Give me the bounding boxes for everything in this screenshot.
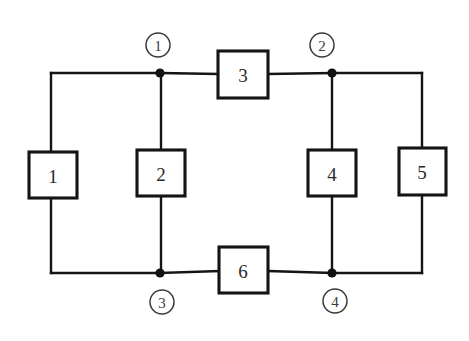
circuit-schematic-svg: 123456 1234 <box>0 0 469 341</box>
node-marker-3: 3 <box>150 290 174 314</box>
wire-node1-to-box3 <box>160 73 218 74</box>
component-branch-6[interactable]: 6 <box>219 247 268 293</box>
component-label-2: 2 <box>156 164 166 185</box>
component-branch-3[interactable]: 3 <box>218 51 268 98</box>
node-marker-1: 1 <box>146 33 170 57</box>
node-label-3: 3 <box>158 295 166 311</box>
component-branch-5[interactable]: 5 <box>399 148 446 195</box>
node-label-1: 1 <box>154 38 162 54</box>
node-label-2: 2 <box>318 38 326 54</box>
junction-dot-4 <box>327 268 336 277</box>
component-branch-4[interactable]: 4 <box>308 150 356 196</box>
component-branch-1[interactable]: 1 <box>29 152 77 198</box>
wires-layer <box>51 73 422 273</box>
component-label-1: 1 <box>48 166 58 187</box>
wire-box3-to-node2 <box>268 73 332 74</box>
component-label-5: 5 <box>417 162 427 183</box>
junction-dot-2 <box>327 68 336 77</box>
component-branch-2[interactable]: 2 <box>137 150 185 196</box>
component-boxes-layer: 123456 <box>29 51 446 293</box>
wire-box6-to-node4 <box>268 271 332 273</box>
node-label-4: 4 <box>331 294 339 310</box>
node-marker-4: 4 <box>323 289 347 313</box>
component-label-3: 3 <box>238 65 248 86</box>
component-label-6: 6 <box>238 261 248 282</box>
node-marker-2: 2 <box>310 33 334 57</box>
circuit-diagram-canvas: 123456 1234 <box>0 0 469 341</box>
junction-dot-1 <box>155 68 164 77</box>
wire-node3-to-box6 <box>160 271 219 273</box>
component-label-4: 4 <box>327 164 337 185</box>
junction-dot-3 <box>155 268 164 277</box>
